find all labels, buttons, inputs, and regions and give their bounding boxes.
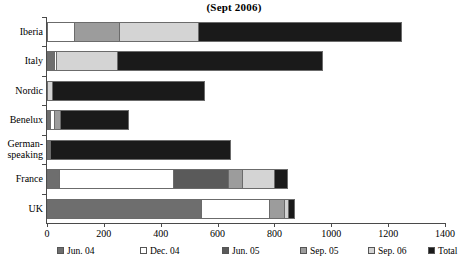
y-axis-label: Nordic	[0, 85, 43, 97]
x-axis-tick	[218, 223, 219, 227]
bar-segment[interactable]	[47, 169, 59, 189]
x-axis-tick-label: 600	[198, 228, 238, 239]
legend-swatch-icon	[222, 247, 229, 254]
legend-item[interactable]: Jun. 05	[222, 245, 259, 257]
x-axis-tick	[104, 223, 105, 227]
bar-row	[47, 164, 445, 193]
y-axis-category-labels: IberiaItalyNordicBeneluxGerman-speakingF…	[0, 17, 43, 223]
bar-segment[interactable]	[47, 22, 74, 42]
bar-segment[interactable]	[274, 169, 288, 189]
y-axis-tick	[42, 135, 46, 136]
bar-segment[interactable]	[47, 199, 201, 219]
x-axis-line	[46, 223, 446, 224]
bar-row	[47, 17, 445, 46]
legend-label: Sep. 05	[310, 245, 339, 257]
stacked-bar[interactable]	[47, 81, 205, 101]
legend-swatch-icon	[140, 247, 147, 254]
bar-segment[interactable]	[59, 169, 173, 189]
bar-segment[interactable]	[74, 22, 119, 42]
legend-item[interactable]: Sep. 05	[300, 245, 339, 257]
y-axis-label-line: Italy	[0, 55, 43, 67]
x-axis-tick-label: 800	[254, 228, 294, 239]
bar-row	[47, 194, 445, 223]
chart-title: (Sept 2006)	[0, 1, 468, 13]
bar-segment[interactable]	[50, 140, 231, 160]
legend-swatch-icon	[428, 247, 435, 254]
stacked-bar[interactable]	[47, 51, 323, 71]
y-axis-label-line: Benelux	[0, 114, 43, 126]
x-axis-tick-label: 1400	[425, 228, 465, 239]
x-axis-tick-label: 1200	[368, 228, 408, 239]
y-axis-label: German-speaking	[0, 138, 43, 161]
bar-row	[47, 135, 445, 164]
bar-segment[interactable]	[117, 51, 322, 71]
y-axis-tick	[42, 194, 46, 195]
x-axis-tick	[445, 223, 446, 227]
legend-item[interactable]: Sep. 06	[368, 245, 407, 257]
legend-item[interactable]: Total	[428, 245, 457, 257]
legend-label: Jun. 04	[67, 245, 94, 257]
stacked-bar[interactable]	[47, 22, 402, 42]
bar-row	[47, 76, 445, 105]
bar-segment[interactable]	[60, 110, 129, 130]
stacked-bar[interactable]	[47, 199, 295, 219]
legend-label: Sep. 06	[378, 245, 407, 257]
legend-label: Jun. 05	[232, 245, 259, 257]
bar-segment[interactable]	[198, 22, 403, 42]
stacked-bar[interactable]	[47, 169, 288, 189]
y-axis-label: Iberia	[0, 26, 43, 38]
y-axis-label-line: UK	[0, 203, 43, 215]
x-axis-tick-label: 200	[84, 228, 124, 239]
y-axis-label: UK	[0, 203, 43, 215]
plot-area	[47, 17, 445, 223]
legend-label: Total	[438, 245, 457, 257]
bar-segment[interactable]	[242, 169, 274, 189]
x-axis-tick	[274, 223, 275, 227]
bar-segment[interactable]	[52, 81, 205, 101]
bar-row	[47, 46, 445, 75]
bar-segment[interactable]	[47, 51, 54, 71]
legend-item[interactable]: Jun. 04	[57, 245, 94, 257]
bar-segment[interactable]	[288, 199, 295, 219]
y-axis-label: France	[0, 173, 43, 185]
legend-swatch-icon	[57, 247, 64, 254]
legend-swatch-icon	[368, 247, 375, 254]
y-axis-tick	[42, 164, 46, 165]
stacked-bar[interactable]	[47, 140, 231, 160]
bar-segment[interactable]	[201, 199, 269, 219]
y-axis-tick	[42, 76, 46, 77]
y-axis-label: Italy	[0, 55, 43, 67]
y-axis-label-line: France	[0, 173, 43, 185]
y-axis-label-line: German-	[0, 138, 43, 150]
y-axis-tick	[42, 46, 46, 47]
y-axis-label-line: Iberia	[0, 26, 43, 38]
x-axis-tick-label: 1000	[311, 228, 351, 239]
x-axis-tick	[331, 223, 332, 227]
legend-label: Dec. 04	[150, 245, 180, 257]
bar-row	[47, 105, 445, 134]
bar-segment[interactable]	[56, 51, 117, 71]
stacked-bar[interactable]	[47, 110, 129, 130]
bar-segment[interactable]	[269, 199, 284, 219]
x-axis-tick-label: 0	[27, 228, 67, 239]
bar-segment[interactable]	[228, 169, 242, 189]
bar-segment[interactable]	[173, 169, 228, 189]
bar-segment[interactable]	[119, 22, 197, 42]
chart-legend: Jun. 04Dec. 04Jun. 05Sep. 05Sep. 06Total	[0, 245, 468, 259]
x-axis-tick	[161, 223, 162, 227]
y-axis-label-line: Nordic	[0, 85, 43, 97]
x-axis-tick	[388, 223, 389, 227]
x-axis-tick-label: 400	[141, 228, 181, 239]
chart-root: (Sept 2006) IberiaItalyNordicBeneluxGerm…	[0, 0, 468, 264]
legend-item[interactable]: Dec. 04	[140, 245, 180, 257]
x-axis-tick	[47, 223, 48, 227]
y-axis-label-line: speaking	[0, 149, 43, 161]
y-axis-tick	[42, 105, 46, 106]
y-axis-tick	[42, 17, 46, 18]
y-axis-label: Benelux	[0, 114, 43, 126]
legend-swatch-icon	[300, 247, 307, 254]
